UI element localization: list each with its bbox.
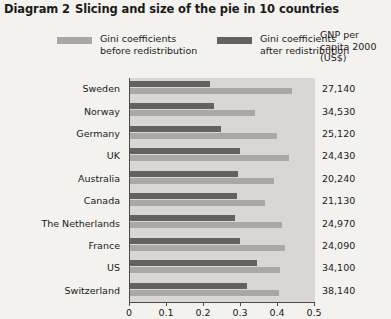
bar-before-redistribution: [130, 267, 280, 273]
gnp-value-row: 20,240: [322, 168, 388, 190]
bar-after-redistribution: [130, 148, 240, 154]
axis-tick: [166, 302, 167, 306]
category-label: UK: [0, 151, 120, 161]
bar-group: [130, 100, 315, 122]
category-label-row: UK: [0, 145, 124, 167]
gnp-value-row: 24,090: [322, 235, 388, 257]
category-label-row: Sweden: [0, 78, 124, 100]
gnp-value-row: 25,120: [322, 123, 388, 145]
axis-tick: [240, 302, 241, 306]
legend-item-before: Gini coefficients before redistribution: [57, 33, 197, 56]
axis-tick-label: 0.4: [269, 307, 284, 318]
bar-after-redistribution: [130, 193, 237, 199]
value-axis-line: [129, 302, 314, 303]
category-label: US: [0, 263, 120, 273]
category-label-row: Norway: [0, 100, 124, 122]
bar-after-redistribution: [130, 215, 235, 221]
bar-after-redistribution: [130, 81, 210, 87]
gnp-value-row: 34,530: [322, 100, 388, 122]
gnp-value-row: 34,100: [322, 257, 388, 279]
category-label: The Netherlands: [0, 219, 120, 229]
gnp-column-header-line1: GNP per: [320, 29, 376, 41]
category-label: Australia: [0, 174, 120, 184]
gnp-value: 20,240: [322, 174, 382, 184]
gnp-value: 34,100: [322, 263, 382, 273]
category-label-row: The Netherlands: [0, 212, 124, 234]
gnp-column-values: 27,14034,53025,12024,43020,24021,13024,9…: [322, 78, 388, 302]
gnp-value-row: 24,970: [322, 212, 388, 234]
axis-tick-label: 0.3: [232, 307, 247, 318]
bar-before-redistribution: [130, 155, 289, 161]
bar-before-redistribution: [130, 88, 292, 94]
gnp-value: 24,090: [322, 241, 382, 251]
chart-title: Diagram 2Slicing and size of the pie in …: [4, 2, 339, 16]
category-label-row: Germany: [0, 123, 124, 145]
legend-label-before-line1: Gini coefficients: [100, 33, 197, 45]
bar-before-redistribution: [130, 290, 279, 296]
bar-group: [130, 168, 315, 190]
gnp-value: 27,140: [322, 84, 382, 94]
bar-group: [130, 257, 315, 279]
category-axis-labels: SwedenNorwayGermanyUKAustraliaCanadaThe …: [0, 78, 124, 302]
category-label: Canada: [0, 196, 120, 206]
category-label: Switzerland: [0, 286, 120, 296]
gnp-column-header-line3: (US$): [320, 52, 376, 64]
category-label-row: France: [0, 235, 124, 257]
bar-after-redistribution: [130, 283, 247, 289]
bar-before-redistribution: [130, 222, 282, 228]
legend-swatch-after-icon: [217, 37, 252, 44]
chart-title-text: Slicing and size of the pie in 10 countr…: [75, 2, 339, 16]
bar-group: [130, 212, 315, 234]
bar-group: [130, 190, 315, 212]
bar-after-redistribution: [130, 126, 221, 132]
axis-tick: [129, 302, 130, 306]
legend-label-before: Gini coefficients before redistribution: [100, 33, 197, 56]
legend-label-before-line2: before redistribution: [100, 45, 197, 57]
bar-group: [130, 123, 315, 145]
category-label: Norway: [0, 107, 120, 117]
chart-legend: Gini coefficients before redistribution …: [0, 28, 391, 64]
category-label: Sweden: [0, 84, 120, 94]
chart-plot-area: SwedenNorwayGermanyUKAustraliaCanadaThe …: [0, 66, 391, 319]
category-label-row: US: [0, 257, 124, 279]
gnp-value-row: 38,140: [322, 280, 388, 302]
gnp-value: 34,530: [322, 107, 382, 117]
bar-after-redistribution: [130, 103, 214, 109]
bar-after-redistribution: [130, 171, 238, 177]
category-label-row: Switzerland: [0, 280, 124, 302]
bar-before-redistribution: [130, 178, 274, 184]
bar-group: [130, 145, 315, 167]
gnp-value-row: 27,140: [322, 78, 388, 100]
bar-group: [130, 235, 315, 257]
axis-tick: [277, 302, 278, 306]
category-label: Germany: [0, 129, 120, 139]
axis-tick-label: 0.1: [158, 307, 173, 318]
bar-group: [130, 78, 315, 100]
gnp-column-header: GNP per capita 2000 (US$): [320, 29, 376, 64]
gnp-value: 24,430: [322, 151, 382, 161]
gnp-value: 21,130: [322, 196, 382, 206]
axis-tick: [314, 302, 315, 306]
bar-after-redistribution: [130, 238, 240, 244]
bar-after-redistribution: [130, 260, 257, 266]
category-label-row: Australia: [0, 168, 124, 190]
gnp-value: 25,120: [322, 129, 382, 139]
gnp-value-row: 21,130: [322, 190, 388, 212]
bar-before-redistribution: [130, 110, 255, 116]
bar-group: [130, 280, 315, 302]
axis-tick-label: 0: [126, 307, 132, 318]
bar-before-redistribution: [130, 133, 277, 139]
gnp-column-header-line2: capita 2000: [320, 41, 376, 53]
gnp-value: 38,140: [322, 286, 382, 296]
chart-title-number: Diagram 2: [4, 2, 70, 16]
gnp-value-row: 24,430: [322, 145, 388, 167]
bar-before-redistribution: [130, 245, 285, 251]
category-label-row: Canada: [0, 190, 124, 212]
gnp-value: 24,970: [322, 219, 382, 229]
legend-swatch-before-icon: [57, 37, 92, 44]
category-label: France: [0, 241, 120, 251]
axis-tick-label: 0.5: [306, 307, 321, 318]
bar-before-redistribution: [130, 200, 265, 206]
bars-container: [129, 78, 315, 302]
axis-tick-label: 0.2: [195, 307, 210, 318]
